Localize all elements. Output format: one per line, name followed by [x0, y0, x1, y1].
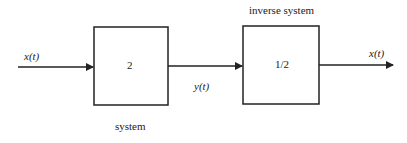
system-label: system — [115, 120, 146, 132]
system-gain: 2 — [127, 59, 133, 71]
input-signal-label: x(t) — [24, 50, 39, 62]
inverse-system-gain: 1/2 — [275, 58, 289, 70]
intermediate-signal-label: y(t) — [194, 80, 209, 92]
output-signal-label: x(t) — [369, 47, 384, 59]
block-diagram — [0, 0, 407, 143]
inverse-system-label: inverse system — [249, 4, 314, 16]
